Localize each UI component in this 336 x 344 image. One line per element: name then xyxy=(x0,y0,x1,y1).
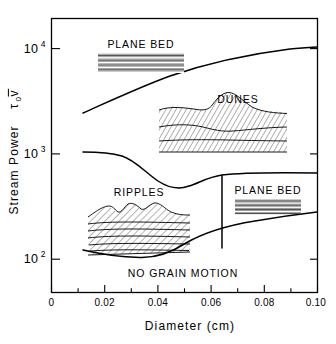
x-tick-label-0.02: 0.02 xyxy=(95,297,116,308)
x-tick-label-0.04: 0.04 xyxy=(148,297,169,308)
region-label-plane-bed-lower: PLANE BED xyxy=(234,184,301,196)
x-tick-label-0: 0 xyxy=(49,297,55,308)
x-tick-label-0.06: 0.06 xyxy=(201,297,222,308)
x-tick-label-0.10: 0.10 xyxy=(306,297,327,308)
region-label-no-grain-motion: NO GRAIN MOTION xyxy=(128,267,238,279)
v-symbol: v xyxy=(7,91,21,97)
y-axis-title-symbol: τ 0 v xyxy=(6,89,23,109)
chart-canvas: PLANE BED DUNES RIPPLES PLANE BED NO GRA… xyxy=(0,0,336,344)
sketch-plane-bed-lower xyxy=(235,199,301,214)
x-axis-title: Diameter (cm) xyxy=(145,319,235,333)
y-tick-label-1e4: 10 4 xyxy=(24,39,46,56)
region-label-dunes: DUNES xyxy=(217,93,258,105)
y-tick-label-1e2: 10 2 xyxy=(24,249,46,266)
y-tick-base-1e2: 10 xyxy=(24,252,38,266)
y-tick-base-1e4: 10 xyxy=(24,42,38,56)
region-label-ripples: RIPPLES xyxy=(114,186,165,198)
stream-power-diameter-bedform-chart: PLANE BED DUNES RIPPLES PLANE BED NO GRA… xyxy=(0,0,336,344)
y-tick-exponent-1e4: 4 xyxy=(41,39,46,49)
curve-ripples-dunes-boundary xyxy=(83,152,317,188)
sketch-ripples xyxy=(88,203,190,255)
sketch-plane-bed-upper xyxy=(98,53,184,73)
y-axis-title-group: Stream Power τ 0 v xyxy=(6,89,23,215)
y-tick-exponent-1e2: 2 xyxy=(41,249,46,259)
y-tick-base-1e3: 10 xyxy=(24,147,38,161)
x-tick-label-0.08: 0.08 xyxy=(254,297,275,308)
tau-symbol: τ xyxy=(6,103,21,109)
y-tick-label-1e3: 10 3 xyxy=(24,144,46,161)
region-label-plane-bed-upper: PLANE BED xyxy=(107,38,174,50)
x-axis-ticks xyxy=(52,285,318,293)
y-tick-exponent-1e3: 3 xyxy=(41,144,46,154)
y-axis-title: Stream Power xyxy=(7,125,21,214)
